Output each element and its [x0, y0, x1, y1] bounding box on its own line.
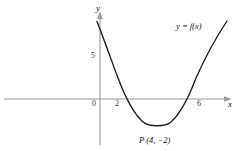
curve-label: y = f(x): [176, 22, 202, 31]
y-axis-label: y: [96, 4, 100, 13]
x-axis-label: x: [228, 100, 232, 109]
tick-label-x-6: 6: [197, 100, 201, 108]
graph-figure: y x y = f(x) 0 2 6 5 P (4, −2): [0, 0, 240, 151]
tick-label-origin: 0: [92, 100, 96, 108]
parabola-curve: [97, 21, 227, 126]
coordinate-plot: [0, 0, 240, 151]
tick-label-x-2: 2: [115, 100, 119, 108]
vertex-point-label: P (4, −2): [139, 136, 170, 145]
tick-label-y-5: 5: [91, 52, 95, 60]
